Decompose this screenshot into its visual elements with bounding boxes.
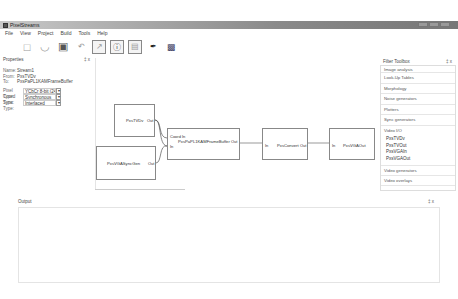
menu-tools[interactable]: Tools (79, 30, 91, 36)
menu-help[interactable]: Help (97, 30, 107, 36)
output-panel[interactable] (18, 207, 440, 283)
port-in[interactable]: In (170, 144, 173, 149)
filter-toolbox-title: Filter Toolbox (383, 59, 410, 64)
window-title: PixelStreams (10, 22, 39, 28)
node-pxspapl1kamframebuffer[interactable]: Coord In PxsPaPL1KAMFrameBuffer In Out (167, 128, 240, 160)
title-bar: PixelStreams (0, 21, 458, 29)
minimize-button[interactable] (418, 22, 428, 27)
save-icon[interactable]: ▣ (56, 40, 70, 54)
canvas-vertical-scrollbar[interactable] (372, 58, 377, 190)
category-video-overlays[interactable]: Video overlays (381, 176, 455, 187)
canvas-horizontal-scrollbar[interactable] (95, 187, 185, 190)
menu-build[interactable]: Build (60, 30, 71, 36)
category-lookup-tables[interactable]: Look-Up Tables (381, 73, 455, 84)
menu-bar: File View Project Build Tools Help (0, 29, 458, 37)
close-button[interactable] (440, 22, 450, 27)
maximize-button[interactable] (429, 22, 439, 27)
new-file-icon[interactable]: □ (20, 40, 34, 54)
node-pxsconvert[interactable]: In PxsConvert Out (262, 128, 308, 160)
toolbox-item-pxsvgaout[interactable]: PxsVGAOut (381, 156, 455, 163)
toolbar: □ ◡ ▣ ↶ ↗ ⓘ ▤ ✒ ▩ (0, 38, 458, 55)
node-pxsvgaout[interactable]: In PxsVGAOut (329, 128, 375, 160)
menu-file[interactable]: File (5, 30, 13, 36)
window-controls (418, 22, 450, 27)
category-morphology[interactable]: Morphology (381, 84, 455, 95)
port-in[interactable]: In (332, 143, 335, 148)
info-icon[interactable]: ⓘ (110, 40, 124, 54)
category-plotters[interactable]: Plotters (381, 105, 455, 116)
port-out[interactable]: Out (300, 143, 306, 148)
category-sync-generators[interactable]: Sync generators (381, 115, 455, 126)
category-video-io[interactable]: Video I/O (381, 126, 455, 137)
filter-toolbox-pin-close[interactable]: ‡ x (446, 59, 452, 64)
output-title: Output (18, 199, 32, 204)
pipeline-canvas[interactable]: PxsTVDv Out PxsVGASyncGen Out Coord In P… (95, 58, 373, 190)
properties-title: Properties (3, 57, 24, 62)
build-icon[interactable]: ▩ (164, 40, 178, 54)
app-icon (3, 23, 8, 28)
menu-project[interactable]: Project (38, 30, 54, 36)
category-video-generators[interactable]: Video generators (381, 165, 455, 176)
port-in[interactable]: In (265, 143, 268, 148)
output-pin-close[interactable]: ‡ x (428, 199, 434, 204)
open-file-icon[interactable]: ◡ (38, 40, 52, 54)
window-icon[interactable]: ▤ (128, 40, 142, 54)
node-pxstvdv[interactable]: PxsTVDv Out (114, 104, 155, 137)
category-image-analysis[interactable]: Image analysis (381, 66, 455, 73)
edit-icon[interactable]: ↗ (92, 40, 106, 54)
menu-view[interactable]: View (20, 30, 31, 36)
filter-toolbox: Image analysis Look-Up Tables Morphology… (380, 65, 456, 191)
brush-icon[interactable]: ✒ (146, 40, 160, 54)
node-pxsvgasyncgen[interactable]: PxsVGASyncGen Out (96, 146, 156, 180)
port-out[interactable]: Out (231, 139, 237, 144)
undo-icon[interactable]: ↶ (74, 40, 88, 54)
port-out[interactable]: Out (148, 161, 154, 166)
port-out[interactable]: Out (147, 118, 153, 123)
properties-pin-close[interactable]: ‡ x (84, 57, 90, 62)
chevron-down-icon[interactable]: ▾ (56, 94, 61, 100)
chevron-down-icon[interactable]: ▾ (56, 100, 61, 106)
category-noise-generators[interactable]: Noise generators (381, 94, 455, 105)
chevron-down-icon[interactable]: ▾ (56, 88, 61, 94)
